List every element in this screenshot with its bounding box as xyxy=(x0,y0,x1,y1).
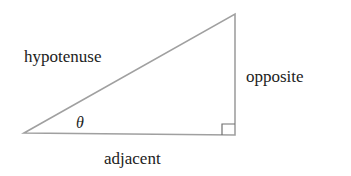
hypotenuse-label: hypotenuse xyxy=(24,47,101,66)
adjacent-label: adjacent xyxy=(104,149,161,168)
right-triangle-diagram: hypotenuse opposite adjacent θ xyxy=(0,0,351,176)
angle-theta-label: θ xyxy=(76,114,84,131)
opposite-label: opposite xyxy=(246,67,304,86)
triangle xyxy=(24,14,235,135)
right-angle-marker xyxy=(222,124,235,135)
